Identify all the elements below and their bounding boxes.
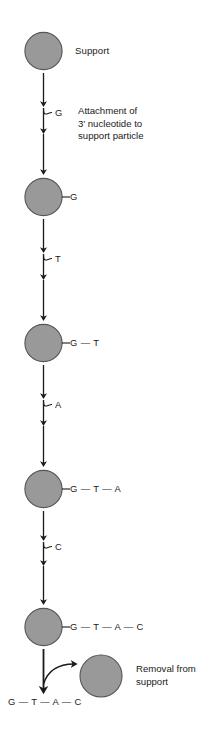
annotation-attachment-line-3: support particle <box>78 130 144 143</box>
released-support-particle-circle <box>80 655 122 697</box>
added-base-label-T: T <box>55 253 61 264</box>
annotation-attachment-line-2: 3’ nucleotide to <box>78 118 142 131</box>
annotation-removal-line-1: Removal from <box>136 663 196 676</box>
added-base-label-G: G <box>55 107 62 118</box>
base-addition-hook-3 <box>44 400 53 406</box>
base-addition-hook-1 <box>44 108 53 114</box>
chain-sequence-step-2: G <box>70 191 78 202</box>
added-base-label-A: A <box>55 399 61 410</box>
support-particle-label: Support <box>75 45 109 58</box>
oligonucleotide-synthesis-diagram: Support Attachment of 3’ nucleotide to s… <box>0 0 204 731</box>
added-base-label-C: C <box>55 541 62 552</box>
cleavage-arrow-curved <box>44 664 75 684</box>
base-addition-hook-4 <box>44 542 53 548</box>
chain-sequence-step-5: G — T — A — C <box>70 621 144 632</box>
released-chain-sequence: G — T — A — C <box>8 696 82 707</box>
support-particle-circle-2 <box>25 178 62 215</box>
support-particle-circle-1 <box>25 32 62 69</box>
chain-sequence-step-3: G — T <box>70 337 99 348</box>
support-particle-circle-4 <box>25 470 62 507</box>
chain-sequence-step-4: G — T — A <box>70 483 121 494</box>
annotation-removal-line-2: support <box>136 676 168 689</box>
support-particle-circle-3 <box>25 324 62 361</box>
annotation-attachment-line-1: Attachment of <box>78 105 137 118</box>
base-addition-hook-2 <box>44 254 53 260</box>
support-particle-circle-5 <box>25 608 62 645</box>
